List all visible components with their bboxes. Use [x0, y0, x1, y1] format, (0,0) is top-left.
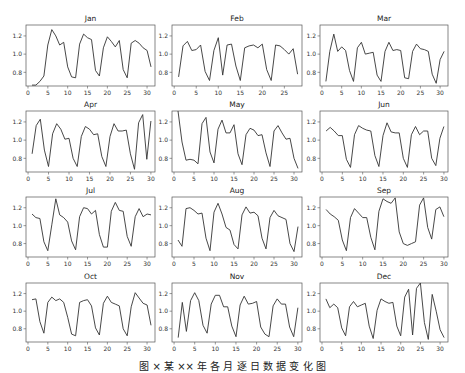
data-line	[32, 199, 151, 251]
x-tick-label: 30	[147, 175, 155, 182]
x-tick-label: 10	[64, 260, 72, 267]
x-tick-label: 30	[436, 89, 444, 96]
axes-frame	[26, 197, 155, 257]
subplot-title: Apr	[84, 100, 98, 109]
axes-frame	[26, 283, 155, 342]
x-tick-label: 25	[123, 345, 131, 352]
x-tick-label: 30	[143, 89, 151, 96]
x-tick-label: 10	[358, 89, 366, 96]
x-tick-label: 20	[397, 89, 405, 96]
x-tick-label: 20	[106, 175, 114, 182]
y-tick-label: 1.2	[158, 204, 168, 211]
x-tick-label: 5	[340, 175, 344, 182]
x-tick-label: 10	[358, 345, 366, 352]
x-tick-label: 5	[193, 345, 197, 352]
x-tick-label: 15	[84, 89, 92, 96]
x-tick-label: 5	[47, 175, 51, 182]
subplot-jan: Jan0.81.01.2051015202530	[12, 14, 155, 96]
x-tick-label: 10	[359, 175, 367, 182]
x-tick-label: 10	[210, 175, 218, 182]
subplot-title: Oct	[84, 272, 97, 281]
x-tick-label: 10	[64, 89, 72, 96]
x-tick-label: 15	[230, 260, 238, 267]
x-tick-label: 25	[420, 175, 428, 182]
y-tick-label: 1.0	[158, 136, 168, 143]
x-tick-label: 0	[26, 89, 30, 96]
x-tick-label: 5	[194, 89, 198, 96]
subplot-title: Aug	[230, 186, 245, 195]
data-line	[32, 293, 151, 336]
y-tick-label: 1.2	[158, 118, 168, 125]
x-tick-label: 15	[377, 345, 385, 352]
x-tick-label: 30	[294, 345, 302, 352]
x-tick-label: 10	[359, 260, 367, 267]
axes-frame	[26, 111, 155, 172]
data-line	[326, 198, 444, 251]
x-tick-label: 15	[232, 345, 240, 352]
x-tick-label: 25	[281, 89, 289, 96]
x-tick-label: 30	[290, 175, 298, 182]
x-tick-label: 5	[192, 175, 196, 182]
x-tick-label: 25	[123, 89, 131, 96]
subplot-title: Jan	[84, 14, 97, 23]
x-tick-label: 10	[210, 260, 218, 267]
y-tick-label: 0.8	[158, 240, 168, 247]
x-tick-label: 0	[320, 89, 324, 96]
x-tick-label: 5	[46, 89, 50, 96]
x-tick-label: 15	[379, 260, 387, 267]
x-tick-label: 20	[399, 260, 407, 267]
subplot-aug: Aug0.81.01.2051015202530	[158, 186, 302, 267]
y-tick-label: 1.0	[158, 50, 168, 57]
x-tick-label: 30	[440, 175, 448, 182]
axes-frame	[172, 25, 302, 86]
subplot-title: Dec	[377, 272, 392, 281]
y-tick-label: 1.2	[306, 118, 316, 125]
subplot-nov: Nov0.81.01.2051015202530	[158, 272, 302, 352]
y-tick-label: 0.8	[158, 69, 168, 76]
x-tick-label: 25	[417, 345, 425, 352]
x-tick-label: 5	[192, 260, 196, 267]
x-tick-label: 25	[127, 175, 135, 182]
x-tick-label: 5	[46, 260, 50, 267]
subplot-title: Nov	[230, 272, 245, 281]
axes-frame	[26, 25, 155, 86]
x-tick-label: 20	[104, 345, 112, 352]
y-tick-label: 1.2	[12, 32, 22, 39]
data-line	[32, 115, 151, 170]
subplot-title: Feb	[230, 14, 244, 23]
y-tick-label: 1.2	[306, 290, 316, 297]
y-tick-label: 0.8	[12, 155, 22, 162]
y-tick-label: 1.0	[12, 136, 22, 143]
x-tick-label: 20	[397, 345, 405, 352]
subplot-title: Jun	[377, 100, 390, 109]
x-tick-label: 5	[340, 345, 344, 352]
x-tick-label: 20	[250, 260, 258, 267]
x-tick-label: 15	[379, 175, 387, 182]
x-tick-label: 15	[86, 175, 94, 182]
y-tick-label: 1.0	[306, 307, 316, 314]
data-line	[179, 38, 298, 81]
x-tick-label: 5	[340, 260, 344, 267]
x-tick-label: 15	[84, 345, 92, 352]
x-tick-label: 25	[270, 260, 278, 267]
figure-caption: 图 × 某 ×× 年 各 月 逐 日 数 据 变 化 图	[0, 358, 465, 373]
subplot-oct: Oct0.81.01.2051015202530	[12, 272, 155, 352]
y-tick-label: 1.0	[306, 136, 316, 143]
y-tick-label: 0.8	[158, 325, 168, 332]
x-tick-label: 20	[250, 175, 258, 182]
data-line	[326, 123, 444, 168]
subplot-feb: Feb0.81.01.20510152025	[158, 14, 302, 96]
x-tick-label: 0	[26, 175, 30, 182]
subplot-title: Mar	[377, 14, 392, 23]
data-line	[178, 293, 298, 338]
x-tick-label: 20	[399, 175, 407, 182]
x-tick-label: 20	[259, 89, 267, 96]
y-tick-label: 0.8	[306, 69, 316, 76]
x-tick-label: 10	[214, 89, 222, 96]
y-tick-label: 1.2	[12, 118, 22, 125]
subplot-jun: Jun0.81.01.2051015202530	[306, 100, 448, 182]
y-tick-label: 0.8	[306, 325, 316, 332]
x-tick-label: 0	[26, 345, 30, 352]
y-tick-label: 1.0	[12, 50, 22, 57]
